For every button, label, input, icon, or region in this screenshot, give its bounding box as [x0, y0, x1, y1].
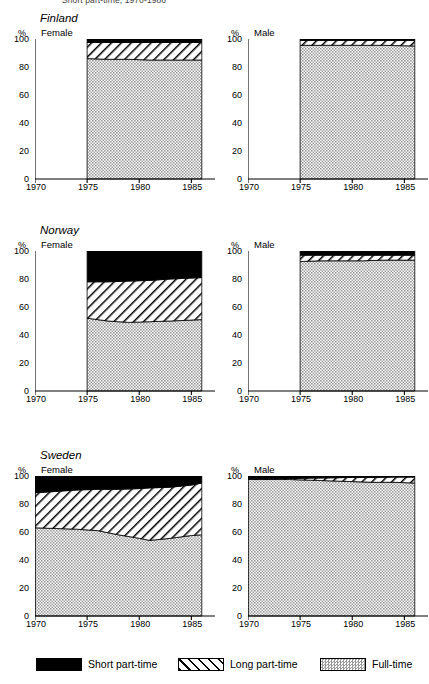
panel-sex-label: Female	[41, 239, 73, 250]
y-axis-tick-labels: 020406080100	[213, 39, 247, 179]
panel-sex-label: Male	[254, 464, 275, 475]
panel-norway-male: %Male0204060801001970197519801985	[213, 224, 427, 419]
y-tick-label: 40	[232, 119, 242, 128]
y-tick-label: 40	[232, 331, 242, 340]
legend-swatch-short-part-time	[36, 658, 82, 671]
legend: Short part-time Long part-time Full-time	[0, 655, 429, 679]
y-tick-label: 20	[232, 147, 242, 156]
y-tick-label: 100	[14, 472, 29, 481]
area-short-part-time	[300, 251, 415, 255]
panel-sex-label: Male	[254, 27, 275, 38]
area-short-part-time	[300, 39, 415, 40]
y-tick-label: 60	[232, 528, 242, 537]
plot-area-norway-male	[249, 251, 421, 391]
plot-area-sweden-male	[249, 476, 421, 616]
y-axis-tick-labels: 020406080100	[0, 39, 34, 179]
y-tick-label: 100	[227, 35, 242, 44]
legend-label-long-part-time: Long part-time	[230, 658, 298, 670]
y-tick-label: 20	[19, 584, 29, 593]
y-axis-tick-labels: 020406080100	[213, 251, 247, 391]
legend-label-short-part-time: Short part-time	[88, 658, 157, 670]
y-tick-label: 60	[19, 91, 29, 100]
legend-swatch-full-time	[320, 658, 366, 671]
chart-page: Short part-time, 1970-1986 Finland%Femal…	[0, 0, 429, 684]
area-long-part-time	[87, 278, 202, 323]
panel-country-label: Sweden	[40, 449, 82, 461]
y-axis-tick-labels: 020406080100	[0, 251, 34, 391]
area-full-time	[35, 528, 202, 616]
panel-finland-male: %Male0204060801001970197519801985	[213, 12, 427, 207]
y-tick-label: 100	[14, 247, 29, 256]
panel-sex-label: Female	[41, 27, 73, 38]
panel-norway-female: Norway%Female020406080100197019751980198…	[0, 224, 214, 419]
y-axis-tick-labels: 020406080100	[213, 476, 247, 616]
y-tick-label: 100	[227, 247, 242, 256]
y-tick-label: 100	[227, 472, 242, 481]
y-tick-label: 20	[19, 359, 29, 368]
panel-sex-label: Male	[254, 239, 275, 250]
legend-label-full-time: Full-time	[372, 658, 412, 670]
chart-row-norway: Norway%Female020406080100197019751980198…	[0, 224, 429, 424]
legend-item-short-part-time: Short part-time	[36, 655, 157, 673]
legend-swatch-long-part-time	[178, 658, 224, 671]
chart-row-sweden: Sweden%Female020406080100197019751980198…	[0, 449, 429, 649]
y-tick-label: 80	[19, 275, 29, 284]
figure-caption: Short part-time, 1970-1986	[62, 0, 166, 5]
y-tick-label: 80	[232, 275, 242, 284]
legend-item-full-time: Full-time	[320, 655, 412, 673]
area-full-time	[87, 318, 202, 391]
y-tick-label: 60	[232, 303, 242, 312]
y-tick-label: 20	[232, 359, 242, 368]
area-full-time	[300, 260, 415, 391]
y-tick-label: 60	[19, 528, 29, 537]
plot-area-finland-male	[249, 39, 421, 179]
y-axis-tick-labels: 020406080100	[0, 476, 34, 616]
plot-area-sweden-female	[36, 476, 208, 616]
panel-finland-female: Finland%Female02040608010019701975198019…	[0, 12, 214, 207]
panel-sex-label: Female	[41, 464, 73, 475]
area-full-time	[248, 480, 415, 617]
y-tick-label: 80	[19, 500, 29, 509]
legend-item-long-part-time: Long part-time	[178, 655, 298, 673]
area-full-time	[87, 59, 202, 179]
area-long-part-time	[87, 43, 202, 61]
y-tick-label: 20	[232, 584, 242, 593]
y-tick-label: 40	[19, 119, 29, 128]
y-tick-label: 40	[19, 556, 29, 565]
y-tick-label: 80	[232, 63, 242, 72]
y-tick-label: 60	[19, 303, 29, 312]
y-tick-label: 40	[19, 331, 29, 340]
area-full-time	[300, 45, 415, 179]
panel-sweden-male: %Male0204060801001970197519801985	[213, 449, 427, 644]
panel-country-label: Norway	[40, 224, 79, 236]
panel-country-label: Finland	[40, 12, 78, 24]
y-tick-label: 80	[19, 63, 29, 72]
area-long-part-time	[300, 40, 415, 46]
y-tick-label: 100	[14, 35, 29, 44]
y-tick-label: 20	[19, 147, 29, 156]
panel-sweden-female: Sweden%Female020406080100197019751980198…	[0, 449, 214, 644]
area-short-part-time	[87, 39, 202, 43]
y-tick-label: 80	[232, 500, 242, 509]
y-tick-label: 40	[232, 556, 242, 565]
plot-area-finland-female	[36, 39, 208, 179]
y-tick-label: 60	[232, 91, 242, 100]
chart-row-finland: Finland%Female02040608010019701975198019…	[0, 12, 429, 212]
plot-area-norway-female	[36, 251, 208, 391]
area-short-part-time	[87, 251, 202, 282]
